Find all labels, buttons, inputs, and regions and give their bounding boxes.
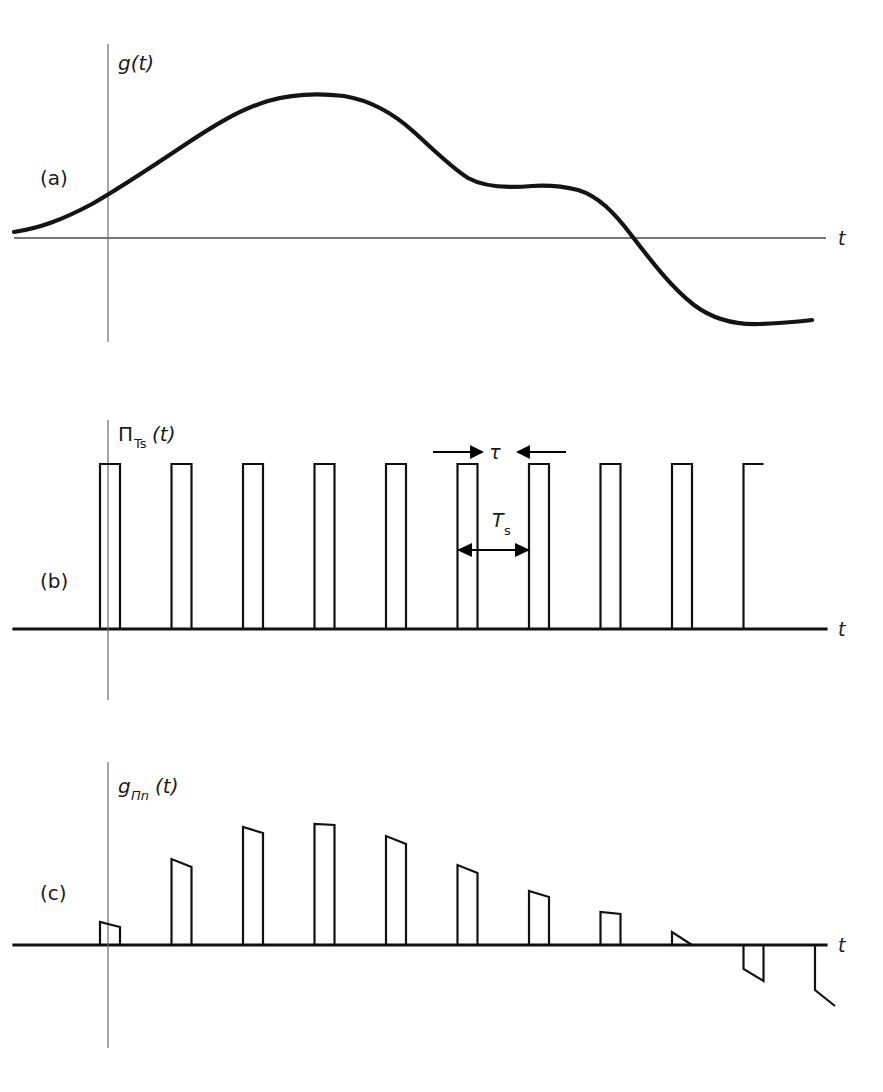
tau-label: τ: [489, 441, 501, 463]
panel-a: (a) g(t) t: [14, 44, 847, 342]
pulse-c-2: [172, 859, 192, 945]
pulse-c-11-negative-clipped: [815, 945, 835, 1006]
pulse-b-8: [601, 464, 621, 629]
panel-b-signal-label-tail: (t): [152, 422, 175, 446]
panel-b-axis-label: t: [838, 618, 847, 640]
pulse-c-10-negative: [744, 945, 764, 981]
ts-right-arrowhead: [515, 543, 530, 557]
panel-b-signal-label-sub: Ts: [133, 436, 147, 451]
pulse-b-5: [386, 464, 406, 629]
pulse-c-4: [315, 824, 335, 945]
panel-b-pulse-train: [100, 464, 764, 629]
pulse-c-7: [529, 891, 549, 945]
pulse-c-9: [672, 932, 692, 945]
pulse-c-5: [386, 836, 406, 945]
figure-container: (a) g(t) t: [0, 0, 883, 1092]
ts-left-arrowhead: [457, 543, 472, 557]
pulse-b-9: [672, 464, 692, 629]
panel-a-signal-curve: [14, 94, 812, 324]
pulse-c-6: [458, 865, 478, 945]
panel-b-tau-annotation: τ: [433, 441, 566, 463]
panel-c-tag: (c): [40, 881, 67, 905]
panel-c-signal-label-sub: Πn: [131, 788, 149, 803]
panel-a-signal-label: g(t): [118, 51, 154, 75]
panel-b-ts-annotation: T s: [457, 509, 530, 557]
panel-c-sampled-pulses: [100, 824, 835, 1006]
pulse-b-1: [100, 464, 120, 629]
pulse-b-7: [529, 464, 549, 629]
pulse-b-3: [243, 464, 263, 629]
panel-c-axis-label: t: [838, 934, 847, 956]
figure-svg: (a) g(t) t: [0, 0, 883, 1092]
pulse-c-1: [100, 922, 120, 945]
tau-right-arrowhead: [516, 445, 530, 459]
ts-label-sub: s: [504, 523, 511, 538]
pulse-c-8: [601, 912, 621, 945]
panel-b-signal-label-main: Π: [118, 422, 133, 446]
tau-left-arrowhead: [470, 445, 484, 459]
pulse-c-3: [243, 827, 263, 945]
pulse-b-2: [172, 464, 192, 629]
panel-c: (c) g Πn (t) t: [14, 762, 847, 1048]
panel-a-axis-label: t: [838, 227, 847, 249]
panel-c-signal-label-main: g: [118, 774, 131, 798]
panel-c-signal-label-tail: (t): [155, 774, 178, 798]
pulse-b-4: [315, 464, 335, 629]
panel-b-tag: (b): [40, 569, 68, 593]
panel-b: τ T s (b) Π Ts (t) t: [14, 420, 847, 700]
pulse-b-10-clipped: [744, 464, 764, 629]
panel-a-tag: (a): [40, 166, 68, 190]
